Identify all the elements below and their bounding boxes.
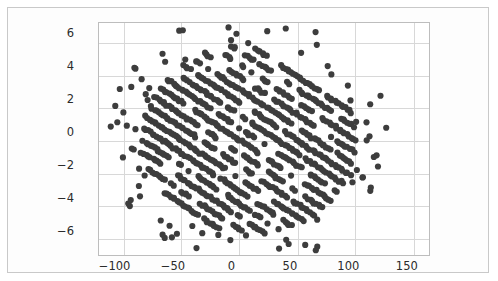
y-tick-label: −4: [57, 193, 74, 205]
y-tick-label: 4: [67, 61, 74, 73]
x-tick-label: 0: [228, 261, 235, 273]
x-tick-label: 50: [283, 261, 298, 273]
y-tick-label: −6: [57, 226, 74, 238]
y-tick-label: 2: [67, 94, 74, 106]
plot-area: [98, 22, 430, 256]
y-tick-label: 6: [67, 28, 74, 40]
scatter-points-layer: [99, 23, 429, 255]
scatter-plot-screenshot: −100−50050100150 6420−2−4−6: [0, 0, 498, 281]
x-tick-label: −50: [161, 261, 185, 273]
y-tick-label: −2: [57, 160, 74, 172]
x-tick-label: 100: [337, 261, 359, 273]
figure-frame: −100−50050100150 6420−2−4−6: [7, 7, 489, 273]
x-tick-label: −100: [99, 261, 131, 273]
y-tick-label: 0: [67, 127, 74, 139]
x-tick-label: 150: [396, 261, 418, 273]
